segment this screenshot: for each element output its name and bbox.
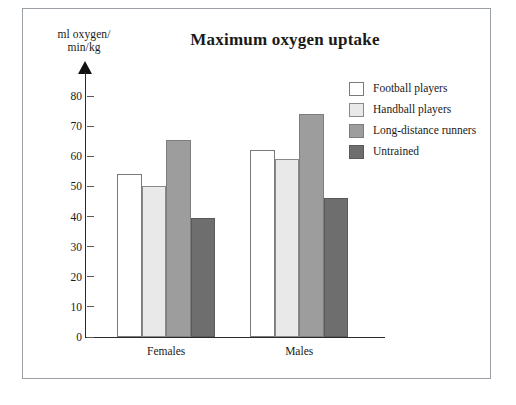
chart-legend: Football playersHandball playersLong-dis… [349, 79, 476, 163]
y-tick-label: 30 [54, 241, 82, 253]
bar-females-long-distance-runners [166, 140, 191, 337]
legend-item-handball-players[interactable]: Handball players [349, 100, 476, 119]
bar-males-untrained [324, 198, 349, 337]
legend-item-long-distance-runners[interactable]: Long-distance runners [349, 121, 476, 140]
y-axis-label-line2: min/kg [38, 41, 130, 54]
chart-title: Maximum oxygen uptake [160, 30, 410, 50]
bar-females-untrained [191, 218, 216, 337]
bar-males-football-players [250, 150, 275, 337]
y-tick-30: 30 [52, 241, 94, 253]
x-axis-line [85, 337, 385, 338]
legend-item-untrained[interactable]: Untrained [349, 142, 476, 161]
x-group-label-males: Males [239, 345, 359, 357]
legend-item-football-players[interactable]: Football players [349, 79, 476, 98]
legend-label: Handball players [373, 103, 451, 116]
legend-swatch-icon [349, 145, 364, 159]
y-tick-mark [87, 306, 94, 307]
y-tick-0: 0 [52, 331, 94, 343]
y-tick-label: 80 [54, 90, 82, 102]
y-tick-80: 80 [52, 90, 94, 102]
y-tick-label: 20 [54, 271, 82, 283]
y-tick-label: 0 [54, 331, 82, 343]
y-tick-mark [87, 246, 94, 247]
y-tick-20: 20 [52, 271, 94, 283]
bar-females-football-players [117, 174, 142, 337]
y-tick-60: 60 [52, 150, 94, 162]
y-axis-label-line1: ml oxygen/ [38, 28, 130, 41]
y-tick-50: 50 [52, 180, 94, 192]
legend-swatch-icon [349, 82, 364, 96]
legend-swatch-icon [349, 124, 364, 138]
bar-males-handball-players [275, 159, 300, 337]
legend-label: Football players [373, 82, 447, 95]
y-tick-mark [87, 337, 94, 338]
y-tick-label: 60 [54, 150, 82, 162]
chart-plot-area: ml oxygen/ min/kg Maximum oxygen uptake … [0, 0, 516, 405]
y-tick-label: 70 [54, 120, 82, 132]
y-tick-mark [87, 96, 94, 97]
y-tick-mark [87, 156, 94, 157]
y-tick-70: 70 [52, 120, 94, 132]
bar-females-handball-players [142, 186, 167, 337]
y-tick-label: 50 [54, 180, 82, 192]
legend-swatch-icon [349, 103, 364, 117]
y-tick-mark [87, 186, 94, 187]
y-tick-mark [87, 276, 94, 277]
y-tick-mark [87, 126, 94, 127]
legend-label: Untrained [373, 145, 419, 158]
x-group-label-females: Females [106, 345, 226, 357]
y-axis-line [85, 72, 86, 338]
y-tick-10: 10 [52, 301, 94, 313]
bar-males-long-distance-runners [299, 114, 324, 337]
legend-label: Long-distance runners [373, 124, 476, 137]
y-tick-label: 10 [54, 301, 82, 313]
y-axis-label: ml oxygen/ min/kg [38, 28, 130, 54]
y-tick-40: 40 [52, 211, 94, 223]
y-tick-mark [87, 216, 94, 217]
y-tick-label: 40 [54, 211, 82, 223]
